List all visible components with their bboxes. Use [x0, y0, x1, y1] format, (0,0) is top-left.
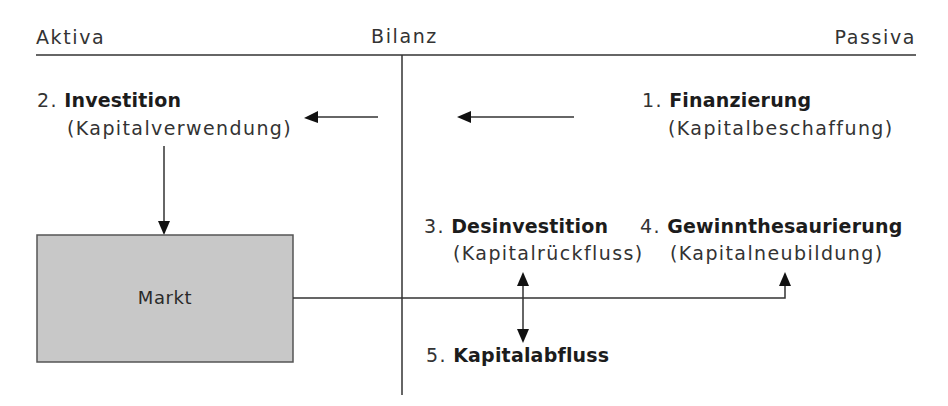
node-number: 4. [640, 215, 661, 237]
arrow-investition-to-markt-icon [158, 146, 170, 235]
node-number: 1. [642, 89, 663, 111]
market-label: Markt [37, 289, 293, 307]
bilanz-capital-flow-diagram: Aktiva Bilanz Passiva 1.Finanzierung (Ka… [0, 0, 948, 406]
header-aktiva: Aktiva [36, 28, 105, 47]
node-gewinnthesaurierung-subtitle: (Kapitalneubildung) [670, 244, 884, 263]
node-desinvestition-subtitle: (Kapitalrückfluss) [453, 244, 644, 263]
arrow-finanzierung-to-bilanz-icon [457, 111, 574, 123]
node-finanzierung-title: 1.Finanzierung [642, 91, 811, 110]
node-title: Kapitalabfluss [453, 344, 609, 366]
arrow-bilanz-to-investition-icon [304, 111, 378, 123]
node-number: 5. [426, 344, 447, 366]
node-number: 3. [424, 215, 445, 237]
arrow-markt-to-gewinnthesaurierung-icon [293, 272, 791, 298]
node-kapitalabfluss-title: 5.Kapitalabfluss [426, 346, 609, 365]
header-passiva: Passiva [835, 28, 916, 47]
node-investition-subtitle: (Kapitalverwendung) [67, 119, 292, 138]
header-bilanz: Bilanz [371, 27, 438, 46]
node-gewinnthesaurierung-title: 4.Gewinnthesaurierung [640, 217, 903, 236]
node-finanzierung-subtitle: (Kapitalbeschaffung) [668, 119, 894, 138]
node-title: Investition [64, 89, 181, 111]
node-desinvestition-title: 3.Desinvestition [424, 217, 608, 236]
node-number: 2. [37, 89, 58, 111]
node-title: Desinvestition [451, 215, 608, 237]
node-title: Finanzierung [669, 89, 811, 111]
arrow-desinvestition-kapitalabfluss-icon [517, 272, 529, 343]
node-investition-title: 2.Investition [37, 91, 181, 110]
node-title: Gewinnthesaurierung [667, 215, 902, 237]
